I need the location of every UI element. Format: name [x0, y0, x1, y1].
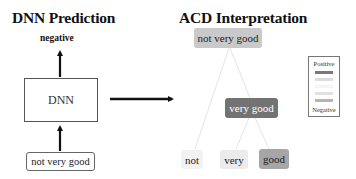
tree-node-root-label: not very good: [197, 32, 258, 44]
tree-leaf-very: very: [220, 150, 248, 169]
input-sentence-box: not very good: [26, 152, 95, 171]
legend-bar-4: [315, 92, 333, 95]
legend-bar-2: [315, 78, 333, 81]
legend-positive-label: Positive: [309, 60, 339, 67]
dnn-prediction-title: DNN Prediction: [12, 9, 115, 27]
tree-edge-root-mid: [230, 48, 250, 98]
legend-bar-5: [315, 99, 333, 102]
legend-bar-3: [315, 85, 333, 88]
legend-negative-label: Negative: [309, 106, 339, 113]
tree-leaf-good: good: [259, 149, 289, 169]
acd-interpretation-title: ACD Interpretation: [179, 9, 307, 27]
tree-node-root: not very good: [194, 28, 262, 48]
prediction-label: negative: [40, 33, 74, 43]
tree-node-mid-label: very good: [229, 102, 273, 114]
legend-bar-1: [315, 71, 333, 74]
input-sentence-text: not very good: [31, 156, 89, 167]
dnn-model-box: DNN: [24, 78, 98, 122]
color-scale-legend: Positive Negative: [308, 56, 340, 117]
tree-node-mid: very good: [225, 98, 278, 118]
tree-edge-mid-good: [255, 118, 269, 149]
tree-edge-root-not: [195, 48, 229, 149]
tree-edge-mid-very: [236, 118, 249, 149]
tree-leaf-very-label: very: [224, 154, 244, 166]
tree-leaf-not-label: not: [185, 154, 199, 166]
dnn-model-label: DNN: [48, 93, 74, 108]
tree-leaf-good-label: good: [263, 153, 285, 165]
tree-leaf-not: not: [181, 150, 203, 169]
